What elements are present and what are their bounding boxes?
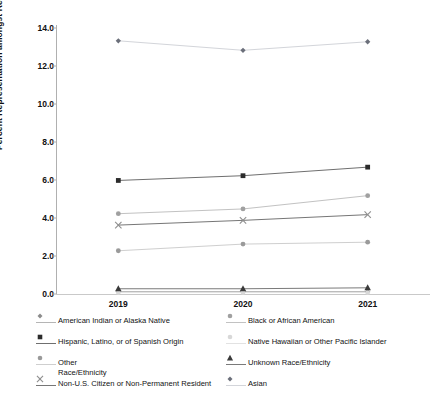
- legend-item-label: Other Race/Ethnicity: [58, 358, 107, 377]
- series-2: [116, 165, 370, 183]
- y-tick-label: 0.0: [0, 289, 54, 299]
- y-tick-label: 10.0: [0, 99, 54, 109]
- x-tick-label: 2019: [109, 299, 128, 309]
- legend-item[interactable]: Unknown Race/Ethnicity: [226, 358, 330, 369]
- y-tick-mark: [53, 65, 56, 66]
- legend-item[interactable]: Non-U.S. Citizen or Non-Permanent Reside…: [36, 379, 211, 390]
- legend-item[interactable]: Asian: [226, 379, 267, 390]
- series-5: [115, 284, 371, 291]
- series-4: [116, 240, 370, 253]
- legend-item-label: Black or African American: [248, 316, 335, 326]
- y-tick-label: 14.0: [0, 23, 54, 33]
- y-tick-mark: [53, 103, 56, 104]
- y-tick-label: 6.0: [0, 175, 54, 185]
- legend-marker-icon: [226, 317, 246, 327]
- line-chart: Percent Representation amongst Residents…: [0, 0, 444, 403]
- legend-item[interactable]: Other Race/Ethnicity: [36, 358, 107, 377]
- legend-item-label: Unknown Race/Ethnicity: [248, 358, 330, 368]
- series-1: [116, 193, 370, 216]
- legend-item[interactable]: American Indian or Alaska Native: [36, 316, 170, 327]
- legend-item[interactable]: Native Hawaiian or Other Pacific Islande…: [226, 337, 386, 348]
- x-axis-line: [56, 294, 430, 295]
- legend-marker-icon: [36, 359, 56, 369]
- y-tick-mark: [53, 293, 56, 294]
- legend-marker-icon: [226, 359, 246, 369]
- legend-item[interactable]: Black or African American: [226, 316, 335, 327]
- legend-marker-icon: [36, 317, 56, 327]
- legend-marker-icon: [226, 380, 246, 390]
- y-tick-label: 12.0: [0, 61, 54, 71]
- y-tick-mark: [53, 217, 56, 218]
- y-tick-label: 2.0: [0, 251, 54, 261]
- legend-item-label: Asian: [248, 379, 267, 389]
- x-tick-label: 2020: [234, 299, 253, 309]
- y-tick-mark: [53, 141, 56, 142]
- legend-item-label: Native Hawaiian or Other Pacific Islande…: [248, 337, 386, 347]
- y-tick-mark: [53, 27, 56, 28]
- legend-marker-icon: [36, 380, 56, 390]
- chart-legend: American Indian or Alaska NativeBlack or…: [36, 316, 440, 400]
- x-tick-label: 2021: [358, 299, 377, 309]
- legend-marker-icon: [36, 338, 56, 348]
- legend-item-label: Non-U.S. Citizen or Non-Permanent Reside…: [58, 379, 211, 389]
- legend-marker-icon: [226, 338, 246, 348]
- y-tick-label: 4.0: [0, 213, 54, 223]
- y-axis-line: [56, 25, 57, 295]
- series-6: [115, 211, 371, 228]
- series-7: [116, 38, 371, 53]
- y-tick-mark: [53, 255, 56, 256]
- y-tick-mark: [53, 179, 56, 180]
- legend-item-label: Hispanic, Latino, or of Spanish Origin: [58, 337, 183, 347]
- y-tick-label: 8.0: [0, 137, 54, 147]
- legend-item-label: American Indian or Alaska Native: [58, 316, 170, 326]
- legend-item[interactable]: Hispanic, Latino, or of Spanish Origin: [36, 337, 183, 348]
